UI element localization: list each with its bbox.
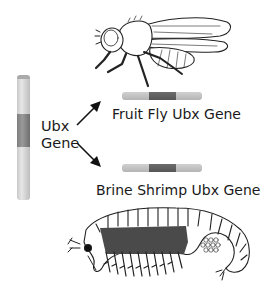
ubx-segment: [17, 114, 30, 147]
gene-cap: [17, 75, 30, 79]
brine-shrimp-illustration: [66, 202, 262, 282]
brine-shrimp-ubx-gene-bar: [122, 164, 202, 172]
ubx-gene-vertical-bar: [17, 75, 30, 200]
ubx-segment: [149, 164, 176, 172]
fruit-fly-gene-label: Fruit Fly Ubx Gene: [112, 106, 241, 122]
arrow-to-brine-shrimp-icon: [74, 140, 104, 170]
arrow-to-fruit-fly-icon: [74, 98, 104, 128]
ubx-segment: [149, 92, 176, 100]
fruit-fly-ubx-gene-bar: [122, 92, 202, 100]
fruit-fly-illustration: [92, 8, 242, 88]
brine-shrimp-gene-label: Brine Shrimp Ubx Gene: [96, 182, 260, 198]
